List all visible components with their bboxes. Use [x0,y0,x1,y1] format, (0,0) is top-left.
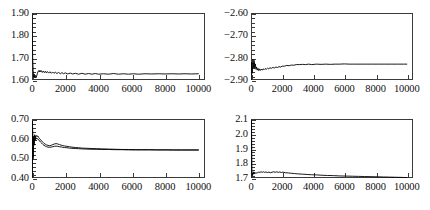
series-bottom-right-trace [251,120,407,178]
figure-container: 1.601.701.801.900200040006000800010000−2… [0,0,430,210]
panel-bottom-right: 1.71.81.92.02.10200040006000800010000 [0,0,430,210]
trace-group-bottom-right [0,0,430,210]
